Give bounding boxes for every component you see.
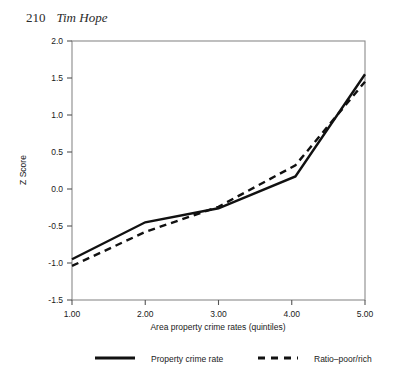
- figure-container: -1.5-1.0-0.50.00.51.01.52.0 1.002.003.00…: [0, 0, 393, 383]
- y-axis-ticks: [67, 41, 72, 300]
- chart-legend: Property crime rateRatio–poor/rich: [95, 354, 372, 364]
- y-tick-label: 1.0: [51, 110, 63, 120]
- x-tick-label: 4.00: [283, 309, 300, 319]
- y-tick-label: -0.5: [48, 221, 63, 231]
- y-axis-tick-labels: -1.5-1.0-0.50.00.51.01.52.0: [48, 36, 63, 305]
- x-axis-tick-labels: 1.002.003.004.005.00: [64, 309, 374, 319]
- y-tick-label: 0.5: [51, 147, 63, 157]
- y-tick-label: -1.0: [48, 258, 63, 268]
- x-axis-title: Area property crime rates (quintiles): [150, 322, 285, 332]
- y-tick-label: -1.5: [48, 295, 63, 305]
- legend-label: Ratio–poor/rich: [314, 354, 372, 364]
- y-tick-label: 2.0: [51, 36, 63, 46]
- x-tick-label: 5.00: [357, 309, 374, 319]
- legend-label: Property crime rate: [151, 354, 224, 364]
- x-axis-ticks: [72, 300, 365, 305]
- x-tick-label: 2.00: [137, 309, 154, 319]
- x-tick-label: 3.00: [210, 309, 227, 319]
- line-chart: -1.5-1.0-0.50.00.51.01.52.0 1.002.003.00…: [0, 0, 393, 383]
- y-axis-title: Z Score: [18, 155, 28, 185]
- y-tick-label: 1.5: [51, 73, 63, 83]
- y-tick-label: 0.0: [51, 184, 63, 194]
- plot-frame: [72, 41, 365, 300]
- x-tick-label: 1.00: [64, 309, 81, 319]
